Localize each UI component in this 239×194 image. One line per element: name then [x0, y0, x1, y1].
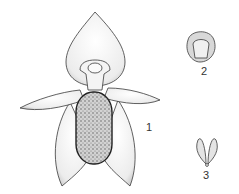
figure-label-3: 3	[203, 170, 209, 181]
figure-label-1: 1	[146, 122, 152, 133]
detail-part-3	[197, 139, 218, 167]
petal-right	[104, 88, 160, 104]
detail-part-2	[187, 32, 215, 62]
anther-cap	[88, 63, 102, 73]
botanical-illustration	[0, 0, 239, 194]
figure-label-2: 2	[201, 66, 207, 77]
lip	[76, 92, 112, 164]
petal-left	[20, 90, 84, 110]
flower-front-view	[20, 12, 160, 186]
